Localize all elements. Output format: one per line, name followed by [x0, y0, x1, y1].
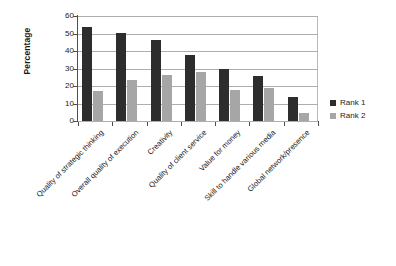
- y-tick-label: 10: [34, 100, 74, 108]
- y-tick-label: 40: [34, 47, 74, 55]
- x-tick-mark: [215, 122, 216, 126]
- y-tick-label: 30: [34, 65, 74, 73]
- bar-rank2: [196, 72, 206, 121]
- y-tick-mark: [73, 86, 77, 87]
- legend-label: Rank 2: [340, 112, 365, 120]
- x-tick-mark: [78, 122, 79, 126]
- legend-item[interactable]: Rank 1: [330, 96, 365, 109]
- x-tick-mark: [181, 122, 182, 126]
- bar-rank2: [299, 113, 309, 121]
- y-tick-mark: [73, 34, 77, 35]
- bar-rank1: [185, 55, 195, 121]
- y-tick-label: 20: [34, 82, 74, 90]
- bar-rank2: [93, 91, 103, 121]
- y-tick-label: 60: [34, 12, 74, 20]
- y-tick-label: 0: [34, 117, 74, 125]
- bar-chart: Percentage 0102030405060 Quality of stra…: [0, 0, 396, 266]
- bar-rank2: [127, 80, 137, 121]
- x-tick-mark: [112, 122, 113, 126]
- bar-rank1: [151, 40, 161, 121]
- bar-rank1: [288, 97, 298, 121]
- y-tick-mark: [73, 121, 77, 122]
- y-tick-mark: [73, 16, 77, 17]
- gridline: [78, 51, 318, 52]
- bar-rank2: [264, 88, 274, 121]
- y-tick-label: 50: [34, 30, 74, 38]
- legend-swatch-icon: [330, 113, 336, 119]
- bar-rank2: [230, 90, 240, 121]
- gridline: [78, 34, 318, 35]
- bar-rank1: [116, 33, 126, 121]
- bar-rank1: [82, 27, 92, 122]
- legend-swatch-icon: [330, 100, 336, 106]
- x-tick-mark: [249, 122, 250, 126]
- bar-rank2: [162, 75, 172, 121]
- y-tick-mark: [73, 104, 77, 105]
- y-tick-mark: [73, 51, 77, 52]
- bar-rank1: [219, 69, 229, 122]
- x-tick-mark: [284, 122, 285, 126]
- chart-legend: Rank 1Rank 2: [330, 96, 365, 122]
- legend-item[interactable]: Rank 2: [330, 109, 365, 122]
- bar-rank1: [253, 76, 263, 121]
- legend-label: Rank 1: [340, 99, 365, 107]
- gridline: [78, 16, 318, 17]
- y-tick-mark: [73, 69, 77, 70]
- x-tick-mark: [318, 122, 319, 126]
- gridline: [78, 121, 318, 122]
- x-tick-mark: [147, 122, 148, 126]
- gridline: [78, 69, 318, 70]
- plot-area: [78, 16, 318, 121]
- y-axis-title: Percentage: [22, 6, 32, 96]
